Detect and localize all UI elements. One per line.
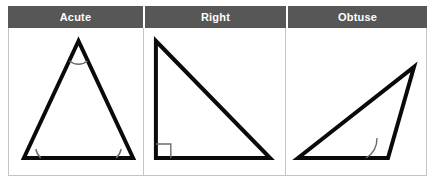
cell-obtuse-triangle — [286, 28, 426, 175]
triangle-types-table: Acute Right Obtuse — [0, 0, 436, 189]
column-header-obtuse: Obtuse — [288, 6, 427, 28]
right-triangle-figure — [144, 28, 285, 175]
column-header-right-label: Right — [201, 11, 230, 23]
table-header-row: Acute Right Obtuse — [8, 6, 427, 28]
acute-triangle-figure — [9, 28, 143, 175]
right-triangle-shape — [156, 41, 270, 158]
column-header-acute: Acute — [8, 6, 143, 28]
acute-triangle-shape — [24, 41, 133, 158]
cell-acute-triangle — [9, 28, 144, 175]
column-header-right: Right — [145, 6, 286, 28]
column-header-acute-label: Acute — [60, 11, 92, 23]
column-header-obtuse-label: Obtuse — [338, 11, 377, 23]
obtuse-triangle-figure — [286, 28, 426, 175]
cell-right-triangle — [144, 28, 286, 175]
obtuse-triangle-shape — [298, 67, 414, 158]
table-body-row — [8, 28, 427, 176]
